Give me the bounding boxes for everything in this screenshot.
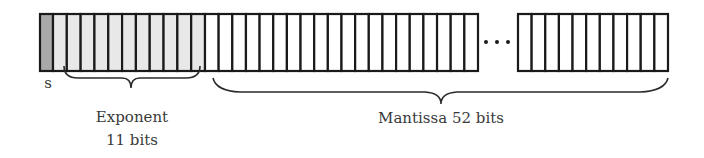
mantissa-bit-cell <box>654 14 668 71</box>
mantissa-bit-cell <box>613 14 627 71</box>
exponent-bit-cell <box>122 14 136 71</box>
mantissa-bit-cell <box>314 14 328 71</box>
mantissa-bit-cell <box>342 14 356 71</box>
exponent-bit-cell <box>67 14 81 71</box>
mantissa-brace <box>213 78 668 104</box>
mantissa-bit-cell <box>232 14 246 71</box>
mantissa-cells-left <box>205 14 478 71</box>
exponent-bit-cell <box>191 14 205 71</box>
mantissa-bit-cell <box>627 14 641 71</box>
mantissa-bit-cell <box>396 14 410 71</box>
mantissa-bit-cell <box>382 14 396 71</box>
mantissa-bit-cell <box>464 14 478 71</box>
mantissa-cells-right <box>518 14 668 71</box>
mantissa-bit-cell <box>369 14 383 71</box>
mantissa-bit-cell <box>301 14 315 71</box>
mantissa-bit-cell <box>219 14 233 71</box>
mantissa-bit-cell <box>437 14 451 71</box>
mantissa-bit-cell <box>545 14 559 71</box>
exponent-bits-label: 11 bits <box>82 133 182 148</box>
mantissa-bit-cell <box>328 14 342 71</box>
mantissa-label: Mantissa 52 bits <box>361 111 521 126</box>
mantissa-bit-cell <box>205 14 219 71</box>
sign-label: s <box>41 76 55 91</box>
mantissa-bit-cell <box>423 14 437 71</box>
exponent-bit-cell <box>164 14 178 71</box>
mantissa-bit-cell <box>586 14 600 71</box>
mantissa-bit-cell <box>355 14 369 71</box>
mantissa-bit-cell <box>573 14 587 71</box>
exponent-bit-cell <box>136 14 150 71</box>
exponent-bit-cell <box>94 14 108 71</box>
exponent-bit-cell <box>150 14 164 71</box>
mantissa-bit-cell <box>518 14 532 71</box>
exponent-cells <box>53 14 205 71</box>
mantissa-bit-cell <box>600 14 614 71</box>
exponent-bit-cell <box>81 14 95 71</box>
mantissa-bit-cell <box>532 14 546 71</box>
mantissa-bit-cell <box>641 14 655 71</box>
exponent-bit-cell <box>177 14 191 71</box>
sign-bit-cell <box>40 14 53 71</box>
exponent-bit-cell <box>108 14 122 71</box>
mantissa-bit-cell <box>410 14 424 71</box>
ellipsis <box>484 40 510 44</box>
exponent-bit-cell <box>53 14 67 71</box>
mantissa-bit-cell <box>246 14 260 71</box>
left-bit-segment <box>40 14 478 71</box>
mantissa-bit-cell <box>559 14 573 71</box>
exponent-label: Exponent <box>82 110 182 125</box>
mantissa-bit-cell <box>260 14 274 71</box>
mantissa-bit-cell <box>287 14 301 71</box>
mantissa-bit-cell <box>273 14 287 71</box>
mantissa-bit-cell <box>451 14 465 71</box>
